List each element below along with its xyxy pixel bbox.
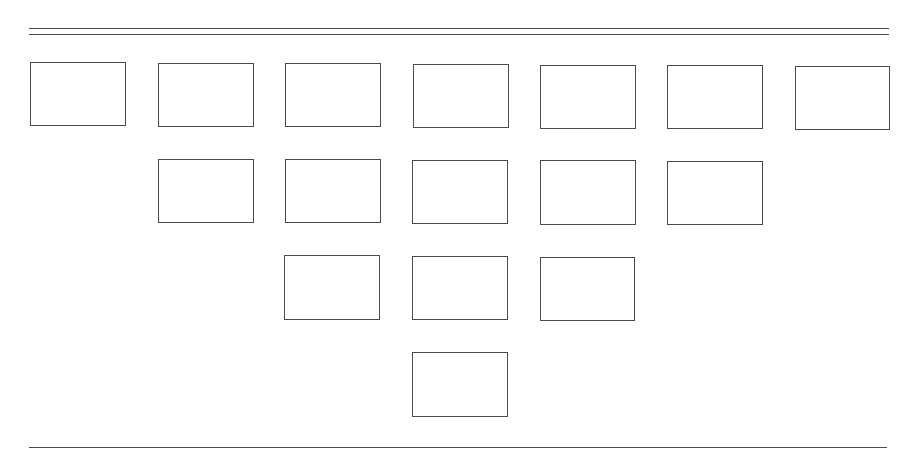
- box-row2-1: [158, 159, 254, 223]
- box-row1-4: [413, 64, 509, 128]
- box-row1-5: [540, 65, 636, 129]
- box-row3-2: [412, 256, 508, 320]
- box-row3-1: [284, 255, 380, 320]
- box-row2-5: [667, 161, 763, 225]
- box-row1-6: [667, 65, 763, 129]
- box-row1-7: [795, 66, 890, 130]
- box-row2-4: [540, 160, 636, 225]
- box-row2-2: [285, 159, 381, 223]
- box-row3-3: [540, 257, 635, 321]
- box-row2-3: [412, 160, 508, 224]
- top-rule-1: [29, 28, 889, 29]
- top-rule-2: [29, 34, 889, 35]
- bottom-rule: [29, 447, 887, 448]
- box-row1-2: [158, 63, 254, 127]
- box-row1-3: [285, 63, 381, 127]
- box-row4-1: [412, 352, 508, 417]
- box-row1-1: [30, 62, 126, 126]
